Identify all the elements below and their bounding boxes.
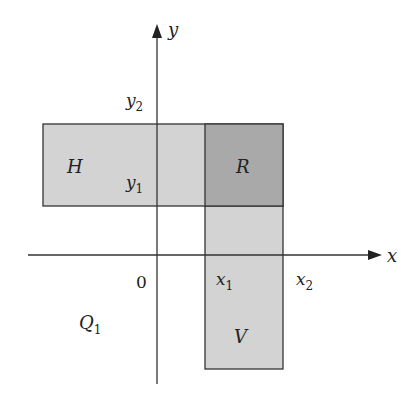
y2-label: y2 xyxy=(125,90,143,114)
diagram-canvas: x y 0 y2 y1 x1 x2 H R V Q1 xyxy=(0,0,420,405)
y-axis-label: y xyxy=(167,19,179,40)
y-axis-arrow-icon xyxy=(152,24,162,38)
region-h-label: H xyxy=(66,156,83,177)
quadrant-q1-label: Q1 xyxy=(79,312,101,337)
region-v-label: V xyxy=(234,326,249,347)
x2-label: x2 xyxy=(296,269,313,293)
region-r-label: R xyxy=(235,156,250,177)
x-axis-arrow-icon xyxy=(368,250,382,260)
x-axis-label: x xyxy=(387,245,397,266)
origin-label: 0 xyxy=(136,272,147,292)
